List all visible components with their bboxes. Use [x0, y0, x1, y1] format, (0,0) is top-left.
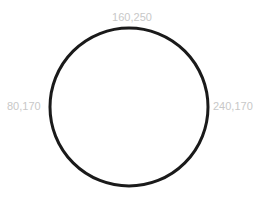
top-point-label: 160,250 — [112, 11, 152, 23]
left-point-label: 80,170 — [7, 100, 41, 112]
right-point-label: 240,170 — [213, 100, 253, 112]
circle-shape — [50, 28, 208, 186]
diagram-canvas: 160,250 80,170 240,170 — [0, 0, 265, 198]
